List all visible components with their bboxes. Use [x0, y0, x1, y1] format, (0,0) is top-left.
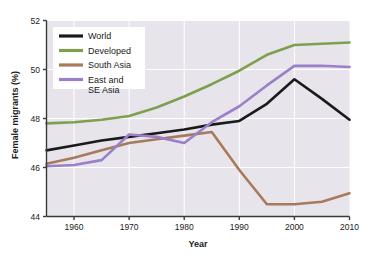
- y-tick-label-46: 46: [14, 163, 40, 173]
- legend: WorldDevelopedSouth AsiaEast andSE Asia: [53, 27, 145, 95]
- legend-label-south-asia: South Asia: [88, 60, 131, 70]
- x-tick-label-2010: 2010: [328, 222, 372, 232]
- x-tick-label-1990: 1990: [217, 222, 261, 232]
- y-tick-label-50: 50: [14, 65, 40, 75]
- x-tick-label-1960: 1960: [52, 222, 96, 232]
- legend-label-developed: Developed: [88, 46, 131, 56]
- legend-label-east-and-se-asia: East and: [88, 75, 124, 85]
- y-tick-label-52: 52: [14, 16, 40, 26]
- legend-label-world: World: [88, 31, 111, 41]
- x-tick-label-1970: 1970: [107, 222, 151, 232]
- x-tick-label-2000: 2000: [272, 222, 316, 232]
- chart-figure: Female migrants (%) 52 50 48 46 44 1960 …: [0, 0, 372, 258]
- y-tick-label-48: 48: [14, 114, 40, 124]
- plot-area: WorldDevelopedSouth AsiaEast andSE Asia: [0, 0, 372, 258]
- y-tick-label-44: 44: [14, 212, 40, 222]
- legend-label-east-and-se-asia: SE Asia: [88, 85, 120, 95]
- x-tick-label-1980: 1980: [162, 222, 206, 232]
- x-axis-title: Year: [158, 239, 238, 249]
